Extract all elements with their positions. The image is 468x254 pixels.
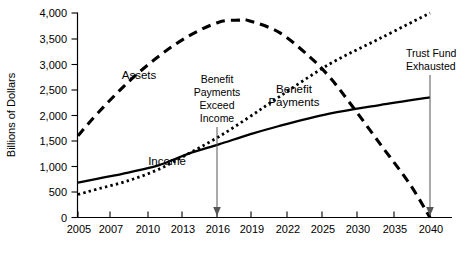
x-tick-label-2022: 2022 [276, 223, 300, 235]
y-tick-label-2500: 2,500 [39, 84, 67, 96]
x-tick-label-2010: 2010 [136, 223, 160, 235]
x-tick-label-2035: 2035 [383, 223, 407, 235]
x-tick-label-2016: 2016 [206, 223, 230, 235]
x-tick-label-2019: 2019 [240, 223, 264, 235]
annotation-line-1: Trust Fund [406, 47, 457, 59]
x-tick-label-2040: 2040 [419, 223, 443, 235]
chart-canvas: Billions of Dollars 0 500 1,000 1,500 2,… [0, 0, 468, 254]
y-tick-label-3500: 3,500 [39, 33, 67, 45]
chart-figure: Billions of Dollars 0 500 1,000 1,500 2,… [0, 0, 468, 254]
annotation-arrow-head [213, 207, 221, 216]
annotation-line-2: Payments [194, 86, 241, 98]
y-tick-label-1500: 1,500 [39, 135, 67, 147]
y-axis-ticks: 0 500 1,000 1,500 2,000 2,500 3,000 3,50… [39, 7, 77, 224]
y-tick-label-4000: 4,000 [39, 7, 67, 19]
y-axis-title: Billions of Dollars [5, 72, 17, 157]
annotation-line-3: Exceed [199, 99, 234, 111]
series-line-assets [78, 20, 430, 218]
y-tick-label-3000: 3,000 [39, 59, 67, 71]
annotation-line-2: Exhausted [406, 60, 456, 72]
x-tick-label-2025: 2025 [311, 223, 335, 235]
series-line-benefit-payments [78, 13, 430, 194]
annotation-line-4: Income [200, 112, 235, 124]
series-label-benefit-payments-line1: Benefit [276, 83, 313, 95]
y-tick-label-2000: 2,000 [39, 110, 67, 122]
annotation-benefit-payments-exceed-income: Benefit Payments Exceed Income [194, 73, 241, 216]
x-tick-label-2005: 2005 [67, 223, 91, 235]
series-label-assets: Assets [122, 69, 157, 81]
x-tick-label-2007: 2007 [99, 223, 123, 235]
series-label-income: Income [148, 155, 186, 167]
series-label-benefit-payments-line2: Payments [268, 96, 319, 108]
x-tick-label-2030: 2030 [346, 223, 370, 235]
x-axis-ticks: 2005 2007 2010 2013 2016 2019 2022 2025 … [67, 212, 443, 236]
annotation-line-1: Benefit [201, 73, 234, 85]
y-tick-label-500: 500 [49, 186, 67, 198]
x-tick-label-2013: 2013 [171, 223, 195, 235]
y-tick-label-1000: 1,000 [39, 161, 67, 173]
y-tick-label-0: 0 [61, 212, 67, 224]
axes [78, 13, 453, 218]
